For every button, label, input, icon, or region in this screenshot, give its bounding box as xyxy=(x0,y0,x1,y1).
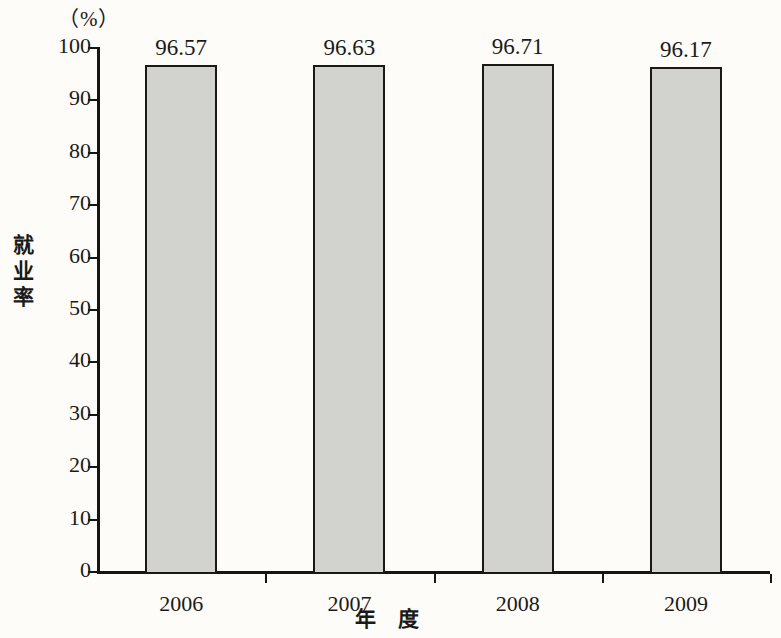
x-tick-mark xyxy=(770,574,772,583)
y-axis-title-char-3: 率 xyxy=(8,284,38,310)
y-tick-label: 60 xyxy=(43,245,91,267)
y-tick-label: 80 xyxy=(43,140,91,162)
bar xyxy=(145,65,217,574)
bar-value-label: 96.57 xyxy=(121,36,241,59)
x-tick-mark xyxy=(434,574,436,583)
y-axis-title-char-1: 就 xyxy=(8,232,38,258)
x-axis-title: 年 度 xyxy=(0,602,781,632)
y-tick-label: 10 xyxy=(43,507,91,529)
bar xyxy=(313,65,385,574)
y-axis-unit-label: （%） xyxy=(58,2,121,32)
bar-value-label: 96.71 xyxy=(458,35,578,58)
x-tick-mark xyxy=(602,574,604,583)
bar xyxy=(482,64,554,574)
y-tick-label: 20 xyxy=(43,454,91,476)
bar-value-label: 96.17 xyxy=(626,38,746,61)
y-tick-label: 70 xyxy=(43,192,91,214)
bar xyxy=(650,67,722,574)
y-tick-label: 50 xyxy=(43,297,91,319)
y-tick-label: 40 xyxy=(43,349,91,371)
y-axis-line xyxy=(97,47,100,574)
x-tick-mark xyxy=(265,574,267,583)
y-tick-label: 30 xyxy=(43,402,91,424)
plot-area: 0102030405060708090100 96.5796.6396.7196… xyxy=(97,47,770,573)
bar-value-label: 96.63 xyxy=(289,36,409,59)
y-tick-label: 0 xyxy=(43,559,91,581)
y-tick-label: 90 xyxy=(43,87,91,109)
y-axis-title-char-2: 业 xyxy=(8,258,38,284)
y-tick-label: 100 xyxy=(43,35,91,57)
y-axis-title: 就 业 率 xyxy=(8,232,38,310)
chart-figure: （%） 就 业 率 0102030405060708090100 96.5796… xyxy=(0,0,781,638)
